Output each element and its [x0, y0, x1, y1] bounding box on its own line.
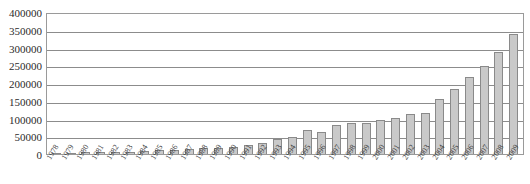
bar-slot [93, 14, 108, 154]
bar-slot [492, 14, 507, 154]
x-axis-tick: 1981 [92, 156, 107, 184]
plot-area [46, 13, 524, 155]
y-axis-tick-label: 0 [37, 150, 43, 161]
bar-slot [329, 14, 344, 154]
x-axis-tick: 2003 [418, 156, 433, 184]
x-axis-tick: 1982 [107, 156, 122, 184]
x-axis-tick: 1992 [255, 156, 270, 184]
bar-slot [403, 14, 418, 154]
y-axis-tick-label: 400000 [9, 8, 42, 19]
bar-slot [64, 14, 79, 154]
x-axis-tick: 1986 [167, 156, 182, 184]
y-axis-tick-label: 250000 [9, 61, 42, 72]
x-axis-tick: 1988 [196, 156, 211, 184]
chart-title [0, 0, 530, 9]
bar-slot [447, 14, 462, 154]
y-axis-tick-label: 150000 [9, 96, 42, 107]
bar-slot [226, 14, 241, 154]
x-axis-tick: 2007 [478, 156, 493, 184]
y-axis-tick-label: 300000 [9, 43, 42, 54]
x-axis-tick: 1994 [285, 156, 300, 184]
x-axis-tick: 2004 [433, 156, 448, 184]
bar[interactable] [494, 52, 503, 154]
x-axis-tick: 1985 [152, 156, 167, 184]
x-axis-tick: 1997 [329, 156, 344, 184]
bar[interactable] [509, 34, 518, 154]
x-axis: 1978197919801981198219831984198519861987… [46, 156, 524, 184]
bar-slot [344, 14, 359, 154]
y-axis-tick-label: 100000 [9, 114, 42, 125]
bar-slot [211, 14, 226, 154]
x-axis-tick: 2006 [463, 156, 478, 184]
x-axis-tick: 1984 [137, 156, 152, 184]
bar-slot [506, 14, 521, 154]
bar-slot [256, 14, 271, 154]
y-axis-tick-label: 350000 [9, 25, 42, 36]
bar-slot [241, 14, 256, 154]
x-axis-tick: 2001 [389, 156, 404, 184]
x-axis-tick: 2002 [404, 156, 419, 184]
x-axis-tick: 1998 [344, 156, 359, 184]
bar-slot [138, 14, 153, 154]
y-axis: 4000003500003000002500002000001500001000… [0, 13, 44, 155]
bar-slot [359, 14, 374, 154]
x-axis-tick: 2005 [448, 156, 463, 184]
bar-slot [315, 14, 330, 154]
x-axis-tick: 1987 [181, 156, 196, 184]
bar-slot [285, 14, 300, 154]
x-axis-tick: 1989 [211, 156, 226, 184]
y-axis-tick-label: 200000 [9, 79, 42, 90]
bar-slot [270, 14, 285, 154]
x-axis-tick: 1993 [270, 156, 285, 184]
bar-slot [182, 14, 197, 154]
x-axis-tick: 1983 [122, 156, 137, 184]
x-axis-tick: 2008 [492, 156, 507, 184]
y-axis-tick-label: 50000 [15, 132, 43, 143]
bar-slot [197, 14, 212, 154]
bar-slot [49, 14, 64, 154]
bar-slot [388, 14, 403, 154]
bar-slot [79, 14, 94, 154]
bar[interactable] [465, 77, 474, 154]
x-axis-tick: 2000 [374, 156, 389, 184]
x-axis-tick: 1995 [300, 156, 315, 184]
x-axis-tick: 1979 [63, 156, 78, 184]
bar-slot [477, 14, 492, 154]
x-axis-tick: 1999 [359, 156, 374, 184]
x-axis-tick: 1990 [226, 156, 241, 184]
bar-slot [374, 14, 389, 154]
bar-slot [300, 14, 315, 154]
x-axis-tick: 1978 [48, 156, 63, 184]
bar-slot [167, 14, 182, 154]
bar-chart: 4000003500003000002500002000001500001000… [0, 0, 530, 184]
bar[interactable] [480, 66, 489, 154]
bar-slot [152, 14, 167, 154]
bar-series [47, 14, 523, 154]
bar-slot [418, 14, 433, 154]
bar-slot [433, 14, 448, 154]
bar-slot [462, 14, 477, 154]
bar-slot [108, 14, 123, 154]
bar-slot [123, 14, 138, 154]
x-axis-tick: 1991 [241, 156, 256, 184]
x-axis-tick: 1980 [78, 156, 93, 184]
x-axis-tick: 1996 [315, 156, 330, 184]
x-axis-tick: 2009 [507, 156, 522, 184]
